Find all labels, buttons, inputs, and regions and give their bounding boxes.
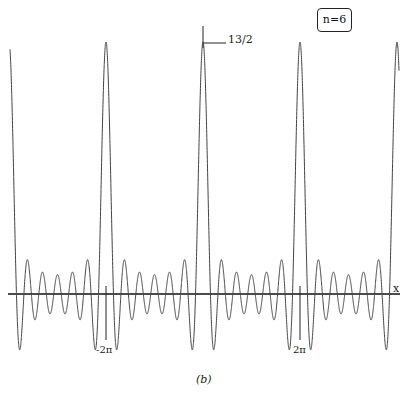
n-badge: n=6 — [317, 8, 352, 32]
tick-label-pos-2pi: 2π — [293, 344, 306, 355]
figure-caption: (b) — [196, 373, 212, 386]
peak-value-label: 13/2 — [228, 33, 253, 46]
function-curve — [10, 42, 399, 350]
dirichlet-kernel-plot — [0, 0, 410, 396]
tick-label-neg-2pi: -2π — [96, 344, 112, 355]
x-axis-label: x — [393, 282, 399, 295]
